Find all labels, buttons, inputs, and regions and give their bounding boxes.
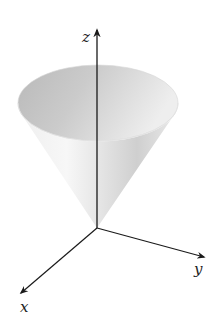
x-axis	[21, 228, 97, 293]
cone-diagram	[0, 0, 213, 326]
x-axis-label: x	[20, 300, 28, 315]
y-axis-label: y	[194, 262, 202, 277]
z-axis-label: z	[82, 30, 90, 45]
y-axis	[97, 228, 204, 257]
cone-opening	[18, 65, 178, 141]
